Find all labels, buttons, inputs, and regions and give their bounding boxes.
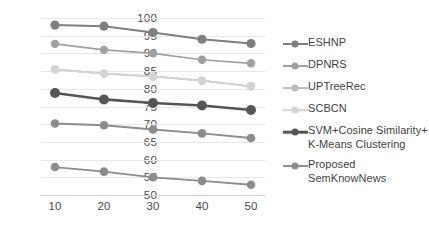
legend-marker-icon <box>283 159 308 173</box>
legend-dot <box>292 63 299 70</box>
legend-marker-icon <box>283 81 308 95</box>
series-eshnp <box>50 20 255 48</box>
data-point <box>50 88 60 98</box>
legend-label: SVM+Cosine Similarity+ K-Means Clusterin… <box>308 124 429 151</box>
data-point <box>246 105 256 115</box>
legend-dot <box>292 107 299 114</box>
x-axis-tick-label: 50 <box>244 200 257 212</box>
legend-item[interactable]: ESHNP <box>283 36 429 51</box>
legend-dot <box>292 85 299 92</box>
legend-marker-icon <box>283 125 308 139</box>
x-axis-tick-label: 40 <box>195 200 208 212</box>
data-point <box>247 59 255 67</box>
legend-dot <box>292 163 299 170</box>
data-point <box>198 56 206 64</box>
data-point <box>100 167 109 176</box>
data-point <box>247 82 255 90</box>
plot-area <box>41 18 265 195</box>
x-axis-tick-label: 30 <box>146 200 159 212</box>
gridline <box>41 195 265 196</box>
data-point <box>149 173 158 182</box>
legend-dot <box>292 129 299 136</box>
line-chart: 10095908580757065605550 1020304050 ESHNP… <box>0 0 429 233</box>
data-point <box>198 177 207 186</box>
data-point <box>51 40 59 48</box>
legend-label: Proposed SemKnowNews <box>308 158 429 185</box>
legend-item[interactable]: UPTreeRec <box>283 80 429 95</box>
series-semknownews-lower <box>51 163 256 189</box>
legend-item[interactable]: SVM+Cosine Similarity+ K-Means Clusterin… <box>283 124 429 151</box>
legend-marker-icon <box>283 103 308 117</box>
data-point <box>148 28 157 37</box>
legend-label: DPNRS <box>308 58 347 72</box>
x-axis-tick-label: 20 <box>97 200 110 212</box>
data-point <box>51 65 59 73</box>
x-axis-tick-label: 10 <box>48 200 61 212</box>
data-point <box>149 72 157 80</box>
legend-item[interactable]: Proposed SemKnowNews <box>283 158 429 185</box>
series-scbcn <box>51 65 255 90</box>
legend-label: SCBCN <box>308 102 347 116</box>
legend-item[interactable]: DPNRS <box>283 58 429 73</box>
series-lines <box>41 18 265 195</box>
legend-marker-icon <box>283 37 308 51</box>
data-point <box>100 121 109 130</box>
data-point <box>247 180 256 189</box>
data-point <box>51 163 60 172</box>
data-point <box>197 35 206 44</box>
legend-dot <box>292 41 299 48</box>
data-point <box>100 69 108 77</box>
legend-label: ESHNP <box>308 36 346 50</box>
data-point <box>50 20 59 29</box>
series-dpnrs <box>51 40 255 68</box>
data-point <box>198 76 206 84</box>
data-point <box>247 134 256 143</box>
data-point <box>197 100 207 110</box>
data-point <box>100 46 108 54</box>
data-point <box>246 39 255 48</box>
series-proposed-semknownews <box>51 119 256 142</box>
chart-legend: ESHNPDPNRSUPTreeRecSCBCNSVM+Cosine Simil… <box>283 36 429 192</box>
data-point <box>51 119 60 128</box>
legend-item[interactable]: SCBCN <box>283 102 429 117</box>
series-svm-cosine-similarity-k-means-clustering <box>50 88 256 115</box>
data-point <box>99 22 108 31</box>
data-point <box>149 125 158 134</box>
legend-label: UPTreeRec <box>308 80 366 94</box>
legend-marker-icon <box>283 59 308 73</box>
data-point <box>148 98 158 108</box>
data-point <box>149 49 157 57</box>
data-point <box>198 129 207 138</box>
data-point <box>99 94 109 104</box>
